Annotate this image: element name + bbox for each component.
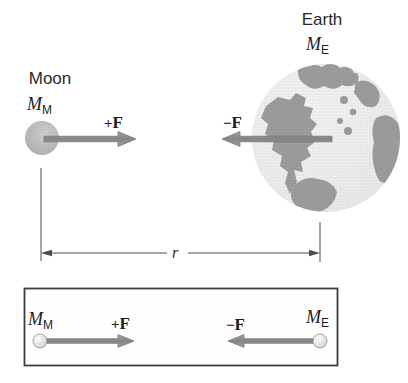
inset-box: MM +F −F ME (25, 289, 338, 366)
inset-moon-point-mass (33, 334, 47, 348)
physics-diagram-gravitation: Moon MM +F Earth ME (0, 0, 408, 383)
earth-name-label: Earth (302, 10, 343, 29)
force-plus-label: +F (104, 113, 123, 132)
dimension-arrowhead-right (309, 250, 320, 256)
separation-label: r (172, 244, 179, 261)
moon-name-label: Moon (29, 69, 72, 88)
dimension-arrowhead-left (41, 250, 52, 256)
force-minus-label: −F (223, 113, 242, 132)
inset-force-plus-label: +F (111, 314, 130, 333)
moon-mass-label: MM (26, 94, 52, 117)
inset-earth-point-mass (313, 334, 327, 348)
inset-force-minus-label: −F (226, 315, 245, 334)
earth-mass-label: ME (305, 34, 329, 57)
diagram-canvas: Moon MM +F Earth ME (0, 0, 408, 383)
inset-border (25, 289, 338, 366)
